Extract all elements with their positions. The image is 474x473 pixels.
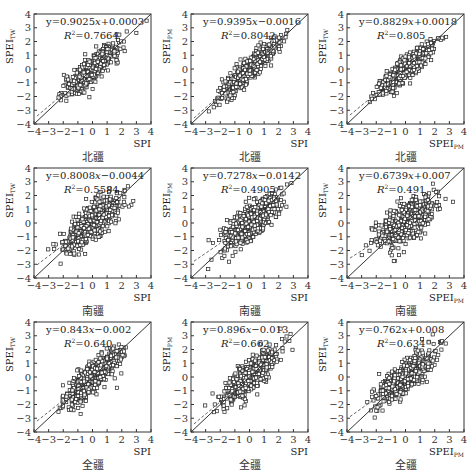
scatter-panel: −4−4−3−3−2−2−1−10011223344y=0.843x−0.002… bbox=[34, 322, 151, 432]
y-tick-label: 2 bbox=[338, 190, 344, 201]
y-tick-label: 0 bbox=[25, 218, 31, 229]
y-tick-label: 4 bbox=[25, 9, 31, 20]
y-tick-label: −2 bbox=[16, 91, 31, 102]
r-squared-label: R2=0.491 bbox=[377, 183, 425, 195]
r-squared-label: R2=0.640 bbox=[64, 337, 112, 349]
y-tick-label: 1 bbox=[338, 50, 344, 61]
y-tick-label: 4 bbox=[338, 317, 344, 328]
region-label: 南疆 bbox=[347, 302, 464, 318]
x-tick-label: 2 bbox=[432, 280, 438, 291]
x-tick-label: 0 bbox=[246, 126, 252, 137]
y-tick-label: 4 bbox=[338, 9, 344, 20]
r-squared-label: R2=0.634 bbox=[377, 337, 425, 349]
x-tick-label: 1 bbox=[104, 434, 110, 445]
y-tick-label: −3 bbox=[173, 105, 188, 116]
region-label: 南疆 bbox=[34, 302, 151, 318]
y-tick-label: −3 bbox=[16, 413, 31, 424]
y-tick-label: −1 bbox=[16, 77, 31, 88]
regression-line bbox=[194, 243, 220, 261]
x-tick-label: −2 bbox=[213, 126, 228, 137]
y-tick-label: 3 bbox=[25, 22, 31, 33]
region-label: 北疆 bbox=[191, 148, 308, 164]
y-tick-label: −3 bbox=[173, 413, 188, 424]
regression-equation: y=0.6739x+0.007 bbox=[359, 170, 451, 181]
x-tick-label: −2 bbox=[369, 434, 384, 445]
y-tick-label: 0 bbox=[25, 372, 31, 383]
y-axis-label: SPEITW bbox=[4, 183, 16, 218]
y-tick-label: −3 bbox=[329, 413, 344, 424]
r-squared-label: R2=0.662 bbox=[221, 337, 269, 349]
x-tick-label: 2 bbox=[432, 434, 438, 445]
y-tick-label: 1 bbox=[182, 358, 188, 369]
y-tick-label: 1 bbox=[338, 204, 344, 215]
y-tick-label: −2 bbox=[329, 399, 344, 410]
y-tick-label: 0 bbox=[182, 218, 188, 229]
regression-line bbox=[350, 398, 376, 417]
x-tick-label: −2 bbox=[213, 280, 228, 291]
y-tick-label: 2 bbox=[25, 344, 31, 355]
x-tick-label: −3 bbox=[41, 126, 56, 137]
x-tick-label: 1 bbox=[261, 434, 267, 445]
y-tick-label: −2 bbox=[329, 91, 344, 102]
x-tick-label: 1 bbox=[261, 126, 267, 137]
scatter-panel: −4−4−3−3−2−2−1−10011223344y=0.6739x+0.00… bbox=[347, 168, 464, 278]
x-tick-label: 2 bbox=[119, 280, 125, 291]
y-tick-label: −2 bbox=[173, 91, 188, 102]
x-tick-label: 4 bbox=[461, 280, 467, 291]
y-tick-label: 4 bbox=[25, 317, 31, 328]
y-tick-label: 4 bbox=[182, 9, 188, 20]
x-tick-label: −2 bbox=[213, 434, 228, 445]
x-tick-label: 0 bbox=[246, 280, 252, 291]
x-tick-label: 2 bbox=[119, 126, 125, 137]
y-tick-label: 1 bbox=[182, 50, 188, 61]
y-axis-label: SPEITW bbox=[4, 337, 16, 372]
y-tick-label: 3 bbox=[338, 176, 344, 187]
y-tick-label: 4 bbox=[338, 163, 344, 174]
y-tick-label: 0 bbox=[338, 218, 344, 229]
y-tick-label: 3 bbox=[338, 330, 344, 341]
x-tick-label: 2 bbox=[276, 126, 282, 137]
y-tick-label: −3 bbox=[329, 259, 344, 270]
scatter-panel: −4−4−3−3−2−2−1−10011223344y=0.8829x+0.00… bbox=[347, 14, 464, 124]
x-tick-label: 2 bbox=[276, 434, 282, 445]
y-tick-label: −1 bbox=[16, 385, 31, 396]
y-axis-label: SPEITW bbox=[4, 29, 16, 64]
regression-equation: y=0.762x+0.008 bbox=[359, 324, 444, 335]
y-tick-label: 4 bbox=[182, 317, 188, 328]
x-tick-label: −1 bbox=[384, 126, 399, 137]
y-tick-label: 4 bbox=[182, 163, 188, 174]
y-tick-label: −1 bbox=[16, 231, 31, 242]
x-tick-label: 3 bbox=[133, 434, 139, 445]
y-tick-label: −4 bbox=[173, 119, 188, 130]
scatter-panel: −4−4−3−3−2−2−1−10011223344y=0.7278x−0.01… bbox=[191, 168, 308, 278]
y-tick-label: −1 bbox=[173, 385, 188, 396]
y-tick-label: −4 bbox=[329, 273, 344, 284]
y-tick-label: −2 bbox=[173, 245, 188, 256]
y-tick-label: 0 bbox=[338, 372, 344, 383]
y-tick-label: 3 bbox=[182, 22, 188, 33]
x-tick-label: −2 bbox=[56, 126, 71, 137]
x-tick-label: 1 bbox=[261, 280, 267, 291]
x-tick-label: 1 bbox=[417, 280, 423, 291]
x-tick-label: 4 bbox=[148, 434, 154, 445]
y-tick-label: 1 bbox=[338, 358, 344, 369]
x-tick-label: 0 bbox=[89, 126, 95, 137]
region-label: 北疆 bbox=[34, 148, 151, 164]
x-tick-label: −3 bbox=[354, 126, 369, 137]
x-tick-label: 3 bbox=[133, 126, 139, 137]
x-tick-label: 4 bbox=[148, 280, 154, 291]
regression-equation: y=0.7278x−0.0142 bbox=[203, 170, 301, 181]
x-tick-label: 4 bbox=[461, 126, 467, 137]
y-axis-label: SPEITW bbox=[317, 29, 329, 64]
x-tick-label: −1 bbox=[228, 126, 243, 137]
y-tick-label: 1 bbox=[25, 50, 31, 61]
y-tick-label: 3 bbox=[25, 176, 31, 187]
y-tick-label: −1 bbox=[329, 231, 344, 242]
y-axis-label: SPEIPM bbox=[161, 183, 173, 218]
x-tick-label: 4 bbox=[305, 280, 311, 291]
y-tick-label: −4 bbox=[173, 273, 188, 284]
x-tick-label: 0 bbox=[89, 434, 95, 445]
y-tick-label: 0 bbox=[182, 372, 188, 383]
x-tick-label: 4 bbox=[461, 434, 467, 445]
regression-equation: y=0.9395x−0.0016 bbox=[203, 16, 301, 27]
